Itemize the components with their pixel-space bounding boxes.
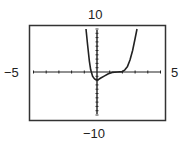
axes bbox=[34, 29, 161, 115]
graph-window bbox=[0, 0, 186, 145]
